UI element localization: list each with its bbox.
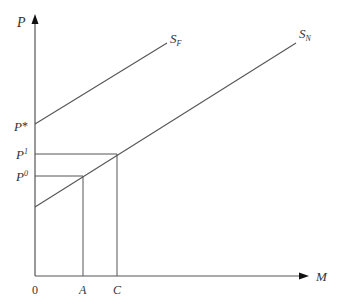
curve-s-n (35, 43, 296, 207)
x-axis-label: M (315, 269, 328, 284)
quantity-label-c: C (113, 283, 122, 297)
price-label-p-star: P* (13, 119, 28, 134)
origin-label: 0 (32, 283, 38, 297)
supply-diagram: P M 0 SF SN P* P1 P0 A C (0, 0, 342, 304)
x-axis-arrow-icon (299, 273, 309, 280)
curve-label-s-f: SF (170, 31, 182, 48)
curve-label-s-n: SN (299, 26, 312, 43)
price-label-p0: P0 (15, 169, 28, 184)
price-label-p1: P1 (15, 147, 28, 162)
quantity-label-a: A (78, 283, 87, 297)
y-axis-label: P (16, 15, 26, 30)
curve-s-f (35, 43, 167, 124)
y-axis-arrow-icon (32, 14, 39, 24)
